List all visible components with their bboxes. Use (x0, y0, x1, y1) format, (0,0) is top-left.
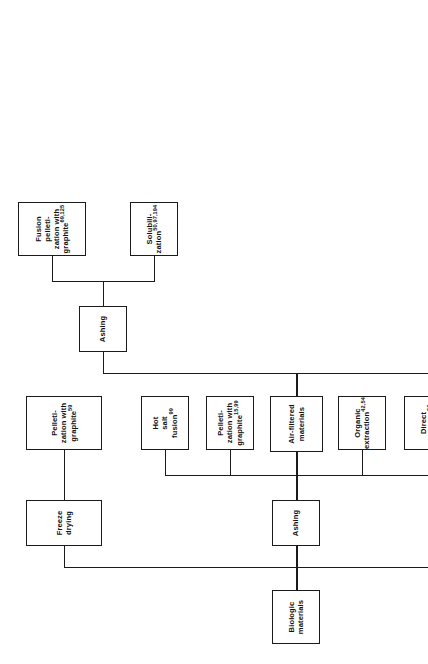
edge-af-bus (103, 373, 428, 374)
node-label: Freeze drying (55, 511, 74, 536)
node-ashing-air[interactable]: Ashing (79, 306, 127, 352)
edge-af-to-ashing (103, 352, 104, 374)
node-label: Pelleti- zation with graphite59 (50, 403, 78, 443)
node-label: Ashing (291, 510, 300, 536)
edge-afash-bus (52, 281, 155, 282)
node-label: Organic extraction42,54 (353, 397, 372, 449)
edge-bmash-organic (362, 450, 363, 476)
node-ref: 99 (168, 408, 174, 415)
edge-bm-to-ashing (296, 546, 297, 568)
node-organic-extraction[interactable]: Organic extraction42,54 (338, 396, 386, 450)
tree-root: Biologic materials Freeze drying Pelleti… (0, 0, 428, 664)
node-pelletization-graphite-15-99[interactable]: Pelleti- zation with graphite15,99 (206, 396, 254, 450)
air-filtered-materials[interactable]: Air-filtered materials (270, 396, 323, 452)
node-ref: 69,125 (60, 205, 66, 223)
node-ref: 15,99 (233, 400, 239, 415)
node-label: Ashing (98, 316, 107, 342)
node-label: Solubili- zation50,97,194 (145, 205, 164, 254)
node-ref: 42,54 (360, 397, 366, 412)
edge-bmash-hotsalt (165, 450, 166, 476)
edge-afash-solub (154, 256, 155, 282)
edge-bmash-pellet (230, 450, 231, 476)
node-hot-salt-fusion[interactable]: Hot salt fusion99 (141, 396, 189, 450)
edge-bmash-stem (296, 476, 297, 500)
edge-afash-stem (103, 282, 104, 306)
node-label: Pelleti- zation with graphite15,99 (216, 400, 244, 446)
edge-afash-fusion (52, 256, 53, 282)
edge-freeze-to-pellet (64, 450, 65, 500)
node-biologic-materials[interactable]: Biologic materials (272, 590, 320, 644)
node-fusion-pelletization-graphite[interactable]: Fusion pelleti- zation with graphite69,1… (18, 202, 86, 256)
node-pelletization-graphite-59[interactable]: Pelleti- zation with graphite59 (26, 396, 102, 450)
node-ashing-biologic[interactable]: Ashing (272, 500, 320, 546)
node-ref: 50,97,194 (152, 205, 158, 231)
diagram-canvas: Biologic materials Freeze drying Pelleti… (0, 0, 428, 664)
node-solubilization-50-97-194[interactable]: Solubili- zation50,97,194 (130, 202, 178, 256)
node-ref: 59 (67, 404, 73, 411)
node-label: Hot salt fusion99 (151, 408, 179, 438)
node-freeze-drying[interactable]: Freeze drying (26, 500, 102, 546)
edge-bm-bus (64, 567, 428, 568)
node-label: Direct analysis99 (419, 404, 428, 441)
edge-bm-stem (296, 568, 297, 590)
node-label: Biologic materials (287, 600, 306, 634)
node-label: Air-filtered materials (287, 404, 306, 444)
node-label: Fusion pelleti- zation with graphite69,1… (34, 205, 71, 254)
edge-bm-to-freeze (64, 546, 65, 568)
edge-bmash-solub (296, 450, 297, 476)
node-direct-analysis-99[interactable]: Direct analysis99 (404, 396, 428, 450)
edge-af-stem (296, 374, 297, 396)
